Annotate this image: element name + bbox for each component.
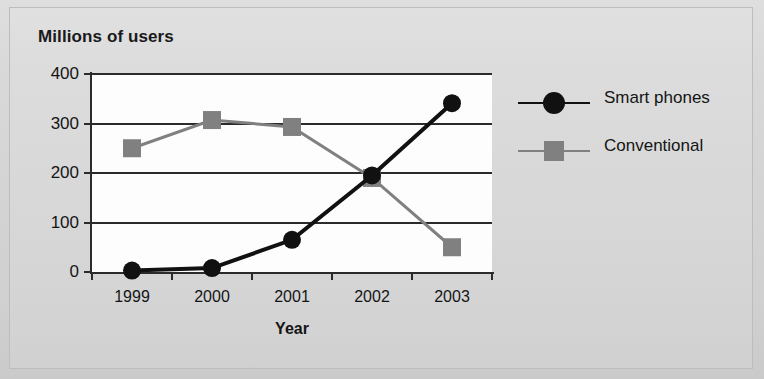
data-point-conventional-2003[interactable] xyxy=(443,238,461,256)
series-plot xyxy=(92,74,492,272)
x-axis-tick xyxy=(411,272,413,280)
x-axis-tick xyxy=(171,272,173,280)
series-line-conventional xyxy=(132,120,452,247)
y-axis-label: 300 xyxy=(51,114,79,134)
x-axis-label: 2002 xyxy=(354,288,390,306)
legend-swatch-conventional xyxy=(518,140,590,162)
y-axis-label: 200 xyxy=(51,163,79,183)
x-axis-line xyxy=(90,272,494,274)
page-title: Millions of users xyxy=(38,27,174,47)
data-point-smart-phones-1999[interactable] xyxy=(123,262,141,280)
legend-item-smart-phones[interactable]: Smart phones xyxy=(518,80,738,128)
legend-swatch-smart-phones xyxy=(518,92,590,114)
y-axis-tick xyxy=(84,73,92,75)
y-axis-tick xyxy=(84,172,92,174)
data-point-conventional-2001[interactable] xyxy=(283,118,301,136)
legend-label-smart-phones: Smart phones xyxy=(604,88,710,108)
data-point-smart-phones-2002[interactable] xyxy=(363,166,381,184)
x-axis-label: 2003 xyxy=(434,288,470,306)
circle-marker-icon xyxy=(543,92,565,114)
x-axis-tick xyxy=(331,272,333,280)
y-axis-tick xyxy=(84,123,92,125)
y-axis-label: 0 xyxy=(70,262,79,282)
x-axis-label: 2000 xyxy=(194,288,230,306)
plot-area: 0100200300400 19992000200120022003 xyxy=(92,74,492,272)
chart-legend: Smart phones Conventional xyxy=(518,80,738,176)
scanned-page-background: Millions of users 0100200300400 19992000… xyxy=(0,0,764,379)
square-marker-icon xyxy=(544,141,564,161)
data-point-smart-phones-2001[interactable] xyxy=(283,231,301,249)
data-point-smart-phones-2000[interactable] xyxy=(203,259,221,277)
data-point-smart-phones-2003[interactable] xyxy=(443,94,461,112)
x-axis-tick xyxy=(251,272,253,280)
y-axis-tick xyxy=(84,222,92,224)
y-axis-label: 100 xyxy=(51,213,79,233)
x-axis-tick xyxy=(491,272,493,280)
x-axis-label: 2001 xyxy=(274,288,310,306)
data-point-conventional-2000[interactable] xyxy=(203,111,221,129)
x-axis-title: Year xyxy=(92,320,492,338)
y-axis-label: 400 xyxy=(51,64,79,84)
legend-label-conventional: Conventional xyxy=(604,136,703,156)
x-axis-tick xyxy=(91,272,93,280)
x-axis-label: 1999 xyxy=(114,288,150,306)
data-point-conventional-1999[interactable] xyxy=(123,139,141,157)
legend-item-conventional[interactable]: Conventional xyxy=(518,128,738,176)
